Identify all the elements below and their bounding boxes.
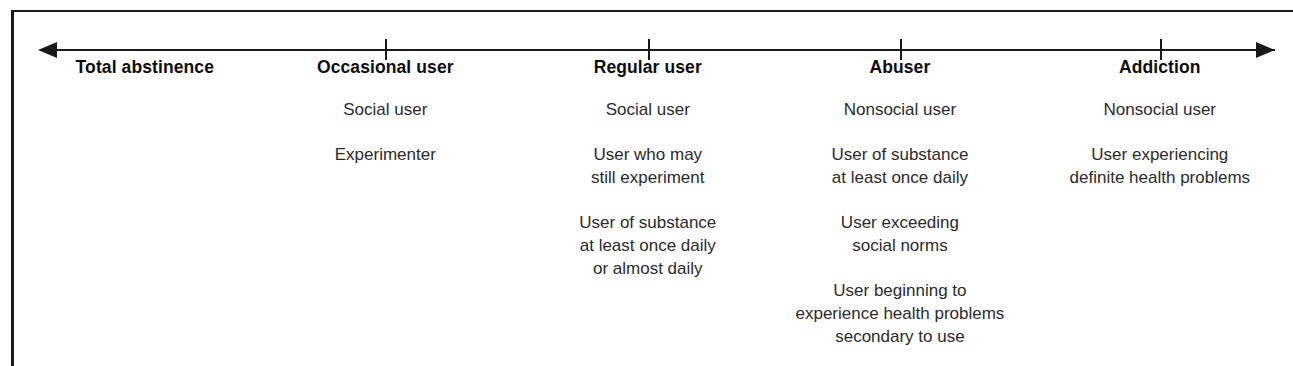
column-heading-total-abstinence: Total abstinence [76,56,214,78]
entry-line: at least once daily [579,234,716,257]
entry-line: User beginning to [795,279,1004,302]
continuum-column-addiction: AddictionNonsocial userUser experiencing… [1070,56,1251,189]
column-entry: Social user [579,98,716,121]
column-entry: Nonsocial user [1070,98,1251,121]
column-entries-abuser: Nonsocial userUser of substanceat least … [795,98,1004,348]
continuum-column-occasional-user: Occasional userSocial userExperimenter [317,56,454,166]
entry-line: Nonsocial user [795,98,1004,121]
column-heading-abuser: Abuser [795,56,1004,78]
entry-line: User who may [579,143,716,166]
entry-line: User of substance [795,143,1004,166]
entry-line: at least once daily [795,166,1004,189]
axis-line [40,49,1275,51]
column-entry: User exceedingsocial norms [795,211,1004,257]
entry-line: Experimenter [317,143,454,166]
column-entries-occasional-user: Social userExperimenter [317,98,454,166]
entry-line: Social user [579,98,716,121]
column-heading-regular-user: Regular user [579,56,716,78]
column-entry: Nonsocial user [795,98,1004,121]
column-entry: Social user [317,98,454,121]
substance-use-continuum-figure: Total abstinenceOccasional userSocial us… [0,0,1293,366]
column-heading-occasional-user: Occasional user [317,56,454,78]
continuum-column-abuser: AbuserNonsocial userUser of substanceat … [795,56,1004,348]
entry-line: still experiment [579,166,716,189]
page-frame-top-rule [11,10,1293,12]
entry-line: social norms [795,234,1004,257]
column-entries-addiction: Nonsocial userUser experiencingdefinite … [1070,98,1251,189]
column-entry: User of substanceat least once daily [795,143,1004,189]
entry-line: definite health problems [1070,166,1251,189]
column-entry: User experiencingdefinite health problem… [1070,143,1251,189]
column-entry: User who maystill experiment [579,143,716,189]
entry-line: or almost daily [579,257,716,280]
entry-line: Nonsocial user [1070,98,1251,121]
arrow-left-icon [38,42,57,58]
column-heading-addiction: Addiction [1070,56,1251,78]
continuum-column-total-abstinence: Total abstinence [76,56,214,98]
entry-line: User of substance [579,211,716,234]
column-entry: User beginning toexperience health probl… [795,279,1004,348]
entry-line: Social user [317,98,454,121]
entry-line: User exceeding [795,211,1004,234]
column-entries-regular-user: Social userUser who maystill experimentU… [579,98,716,280]
entry-line: User experiencing [1070,143,1251,166]
continuum-column-regular-user: Regular userSocial userUser who maystill… [579,56,716,280]
entry-line: experience health problems [795,302,1004,325]
column-entry: Experimenter [317,143,454,166]
arrow-right-icon [1256,42,1275,58]
column-entry: User of substanceat least once dailyor a… [579,211,716,280]
entry-line: secondary to use [795,325,1004,348]
